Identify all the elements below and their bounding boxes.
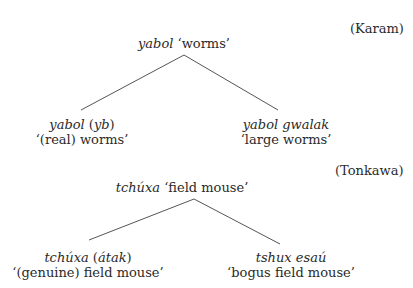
node-gloss: ‘(genuine) field mouse’ bbox=[12, 265, 163, 280]
tonkawa-root-node: tchúxa ‘field mouse’ bbox=[116, 180, 249, 195]
root-gloss: ‘field mouse’ bbox=[164, 180, 248, 195]
karam-root-node: yabol ‘worms’ bbox=[138, 36, 230, 51]
karam-left-node: yabol (yb) ‘(real) worms’ bbox=[36, 117, 129, 147]
node-term: yabol bbox=[49, 117, 84, 132]
tonkawa-right-node: tshux esaú ‘bogus field mouse’ bbox=[227, 250, 355, 280]
node-modifier: átak bbox=[98, 250, 127, 265]
root-term: yabol bbox=[138, 36, 173, 51]
root-term: tchúxa bbox=[116, 180, 160, 195]
node-modifier: yb bbox=[94, 117, 110, 132]
tonkawa-left-node: tchúxa (átak) ‘(genuine) field mouse’ bbox=[12, 250, 163, 280]
root-gloss: ‘worms’ bbox=[178, 36, 230, 51]
node-gloss: ‘(real) worms’ bbox=[36, 132, 129, 147]
karam-left-branch bbox=[81, 55, 184, 110]
language-label-karam: (Karam) bbox=[350, 21, 404, 36]
node-term: tshux esaú bbox=[227, 250, 355, 265]
node-term: yabol gwalak bbox=[241, 117, 332, 132]
node-gloss: ‘large worms’ bbox=[241, 132, 332, 147]
close-paren: ) bbox=[127, 250, 132, 265]
karam-right-branch bbox=[184, 55, 278, 110]
tonkawa-left-branch bbox=[89, 199, 194, 240]
karam-right-node: yabol gwalak ‘large worms’ bbox=[241, 117, 332, 147]
tonkawa-right-branch bbox=[194, 199, 280, 244]
node-gloss: ‘bogus field mouse’ bbox=[227, 265, 355, 280]
node-term: tchúxa bbox=[44, 250, 88, 265]
language-label-tonkawa: (Tonkawa) bbox=[335, 163, 404, 178]
close-paren: ) bbox=[110, 117, 115, 132]
